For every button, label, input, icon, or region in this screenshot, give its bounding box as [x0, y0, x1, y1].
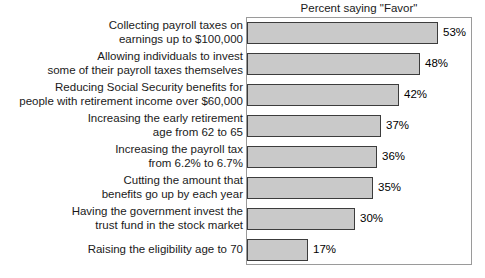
category-label-line: Increasing the early retirement — [88, 112, 243, 125]
bar — [247, 115, 381, 137]
category-label-line: Increasing the payroll tax — [115, 143, 243, 156]
bar-row: Increasing the payroll taxfrom 6.2% to 6… — [0, 141, 485, 172]
bar-and-value: 35% — [247, 172, 401, 203]
bar-value-label: 42% — [404, 88, 427, 101]
bar-and-value: 17% — [247, 234, 336, 265]
bar-and-value: 36% — [247, 141, 405, 172]
bar — [247, 239, 308, 261]
chart-title: Percent saying "Favor" — [246, 1, 472, 15]
category-label-line: from 6.2% to 6.7% — [148, 157, 243, 170]
category-label: Collecting payroll taxes onearnings up t… — [5, 17, 243, 48]
category-label: Cutting the amount thatbenefits go up by… — [5, 172, 243, 203]
category-label: Raising the eligibility age to 70 — [5, 234, 243, 265]
bar-value-label: 37% — [386, 119, 409, 132]
bar-value-label: 35% — [378, 181, 401, 194]
bar-row: Collecting payroll taxes onearnings up t… — [0, 17, 485, 48]
bar-row: Allowing individuals to investsome of th… — [0, 48, 485, 79]
category-label-line: trust fund in the stock market — [95, 219, 243, 232]
category-label-line: some of their payroll taxes themselves — [47, 64, 243, 77]
category-label: Reducing Social Security benefits forpeo… — [5, 79, 243, 110]
bar-row: Increasing the early retirementage from … — [0, 110, 485, 141]
bar-row: Reducing Social Security benefits forpeo… — [0, 79, 485, 110]
bar-value-label: 36% — [382, 150, 405, 163]
category-label-line: earnings up to $100,000 — [119, 33, 243, 46]
category-label: Allowing individuals to investsome of th… — [5, 48, 243, 79]
category-label: Increasing the payroll taxfrom 6.2% to 6… — [5, 141, 243, 172]
bar — [247, 208, 355, 230]
bar-row: Cutting the amount thatbenefits go up by… — [0, 172, 485, 203]
bar — [247, 53, 420, 75]
bar — [247, 22, 438, 44]
bar-and-value: 30% — [247, 203, 383, 234]
bar-value-label: 17% — [313, 243, 336, 256]
bar-value-label: 53% — [443, 26, 466, 39]
bar-value-label: 48% — [425, 57, 448, 70]
bar-row: Raising the eligibility age to 7017% — [0, 234, 485, 265]
category-label-line: age from 62 to 65 — [153, 126, 243, 139]
category-label-line: people with retirement income over $60,0… — [19, 95, 243, 108]
category-label-line: Cutting the amount that — [123, 174, 243, 187]
bar-and-value: 48% — [247, 48, 448, 79]
bar-and-value: 53% — [247, 17, 466, 48]
category-label-line: Raising the eligibility age to 70 — [88, 243, 243, 256]
bar-row: Having the government invest thetrust fu… — [0, 203, 485, 234]
bar — [247, 84, 399, 106]
category-label: Increasing the early retirementage from … — [5, 110, 243, 141]
bar — [247, 177, 373, 199]
category-label-line: Allowing individuals to invest — [97, 50, 243, 63]
bar-chart-figure: Percent saying "Favor" Collecting payrol… — [0, 0, 485, 278]
bar-and-value: 37% — [247, 110, 409, 141]
category-label-line: Reducing Social Security benefits for — [55, 81, 243, 94]
category-label-line: Having the government invest the — [72, 205, 243, 218]
category-label-line: Collecting payroll taxes on — [109, 19, 243, 32]
bar-and-value: 42% — [247, 79, 427, 110]
bar — [247, 146, 377, 168]
category-label-line: benefits go up by each year — [102, 188, 243, 201]
bar-value-label: 30% — [360, 212, 383, 225]
category-label: Having the government invest thetrust fu… — [5, 203, 243, 234]
